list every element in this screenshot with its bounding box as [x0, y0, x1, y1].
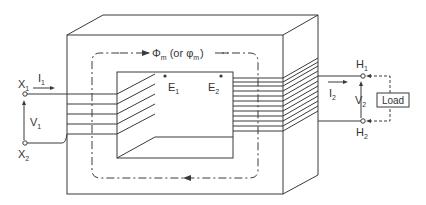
voltage-secondary-label: V2 [355, 94, 366, 108]
terminal-x1 [23, 92, 27, 96]
voltage-arrow-secondary [359, 81, 363, 86]
secondary-winding [233, 58, 361, 131]
terminal-h2 [361, 119, 365, 123]
terminal-x2-label: X2 [18, 148, 29, 162]
primary-winding [27, 74, 155, 143]
terminal-x1-label: X1 [18, 78, 29, 92]
emf-secondary-label: E2 [208, 81, 219, 95]
flux-arrow-top [142, 50, 150, 56]
terminal-h2-label: H2 [356, 126, 368, 140]
current-primary-label: I1 [38, 72, 45, 86]
emf-primary-label: E1 [168, 81, 179, 95]
polarity-dot-primary [163, 74, 166, 77]
load-label: Load [382, 95, 404, 106]
current-arrow-secondary [343, 80, 348, 84]
current-arrow-primary [50, 86, 55, 90]
flux-arrow-bottom [183, 175, 191, 181]
voltage-primary-label: V1 [30, 116, 41, 130]
voltage-arrow-primary [22, 100, 26, 105]
terminal-h1-label: H1 [356, 58, 368, 72]
transformer-diagram: Φm(or φm) [0, 0, 426, 205]
current-secondary-label: I2 [329, 87, 336, 101]
terminal-x2 [23, 141, 27, 145]
polarity-dot-secondary [219, 74, 222, 77]
terminal-h1 [361, 74, 365, 78]
core-top-face [67, 15, 318, 35]
window-depth-edge [117, 137, 233, 158]
